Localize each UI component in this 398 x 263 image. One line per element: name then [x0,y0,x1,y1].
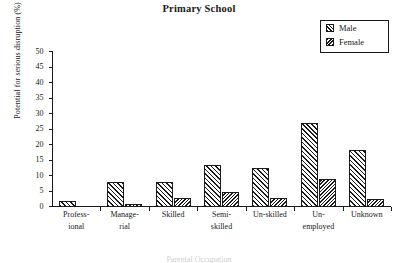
y-axis-tick-label: 50 [36,48,44,56]
y-axis-tick-label: 10 [36,172,44,180]
y-axis-tick-label: 40 [36,79,44,87]
category-label-line2: rial [100,221,148,233]
x-axis-category-label: Manage-rial [100,209,148,232]
category-label-line1: Profess- [63,210,89,219]
category-label-line1: Un- [312,210,324,219]
legend-label-male: Male [339,24,356,33]
y-axis-tick-label: 20 [36,141,44,149]
legend-entry-female[interactable]: Female [326,38,364,47]
bars-layer [52,52,391,207]
category-label-line1: Unknown [351,210,383,219]
legend-swatch-female-icon [326,38,334,46]
bar-female-1[interactable] [125,204,142,207]
x-axis-category-label: Un-employed [294,209,342,232]
category-label-line2: employed [294,221,342,233]
y-axis-tick-label: 5 [40,187,44,195]
x-axis-category-label: Skilled [149,209,197,221]
bar-male-4[interactable] [252,168,269,207]
category-label-line2: ional [52,221,100,233]
legend-swatch-male-icon [326,24,334,32]
bar-male-6[interactable] [349,150,366,207]
category-label-line1: Semi- [212,210,231,219]
x-axis-category-label: Unknown [343,209,391,221]
x-axis-tick [391,207,392,211]
bar-female-3[interactable] [222,192,239,208]
bar-male-3[interactable] [204,165,221,207]
x-axis-category-label: Profess-ional [52,209,100,232]
x-axis-category-label: Un-skilled [246,209,294,221]
plot-area: 05101520253035404550 [52,52,391,207]
y-axis-label: Potential for serious disruption (%) [13,0,22,141]
chart-title: Primary School [0,3,398,14]
bar-male-5[interactable] [301,123,318,207]
bar-female-4[interactable] [270,198,287,207]
bar-male-2[interactable] [156,182,173,207]
category-label-line1: Skilled [162,210,185,219]
category-label-line1: Manage- [110,210,138,219]
y-axis-tick-label: 45 [36,63,44,71]
legend-entry-male[interactable]: Male [326,24,356,33]
y-axis-tick-label: 0 [40,203,44,211]
chart-container: Primary School Potential for serious dis… [0,0,398,263]
legend: Male Female [320,20,389,53]
y-axis-tick-label: 30 [36,110,44,118]
y-axis-tick-label: 35 [36,94,44,102]
x-axis-category-label: Semi-skilled [197,209,245,232]
bar-male-1[interactable] [107,182,124,207]
x-axis-caption: Parental Occupation [0,255,398,263]
category-label-line1: Un-skilled [253,210,287,219]
y-axis-tick-label: 15 [36,156,44,164]
legend-label-female: Female [339,38,364,47]
y-axis-tick-label: 25 [36,125,44,133]
bar-female-2[interactable] [174,198,191,207]
x-axis-category-labels: Profess-ionalManage-rialSkilledSemi-skil… [52,209,391,249]
category-label-line2: skilled [197,221,245,233]
bar-female-6[interactable] [367,199,384,207]
bar-male-0[interactable] [59,201,76,207]
bar-female-5[interactable] [319,179,336,207]
